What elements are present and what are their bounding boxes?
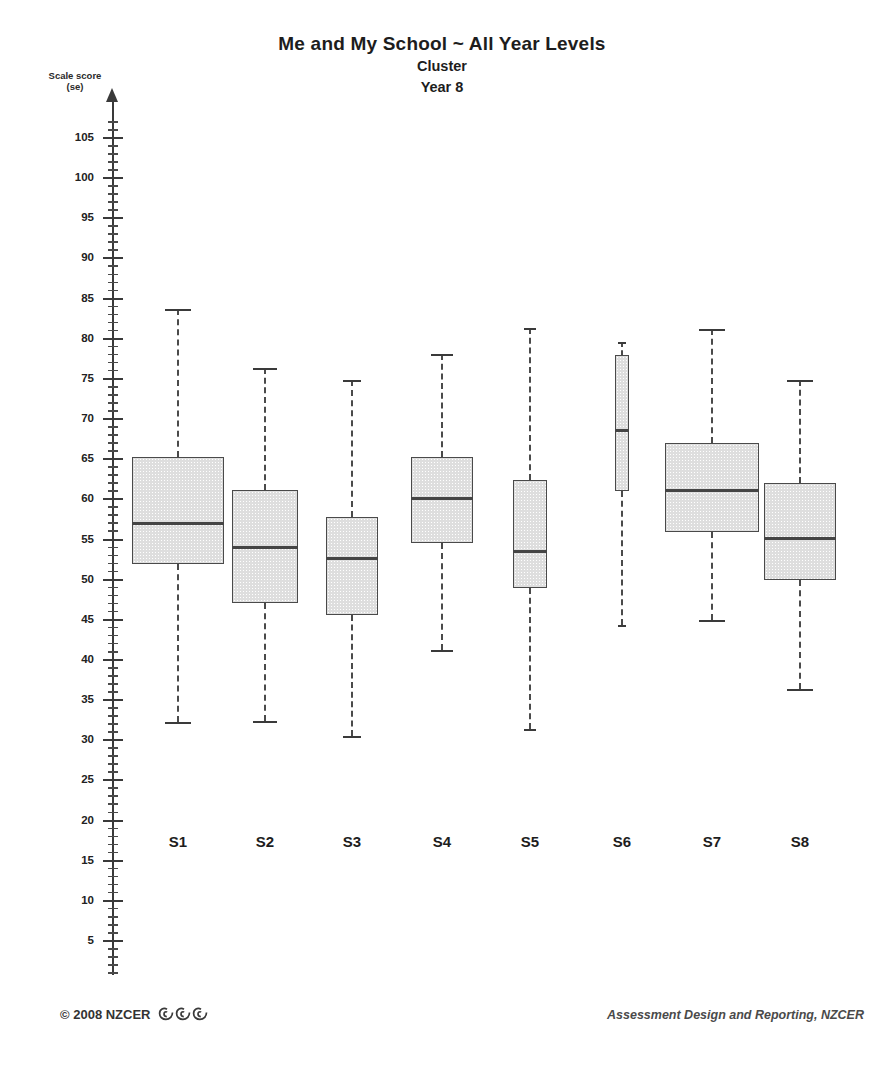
copyright-notice: © 2008 NZCER [60, 1006, 210, 1023]
lower-whisker [799, 580, 801, 689]
upper-whisker [799, 380, 801, 484]
x-axis-label-s4: S4 [412, 833, 472, 850]
x-axis-label-s6: S6 [592, 833, 652, 850]
attribution-text: Assessment Design and Reporting, NZCER [607, 1008, 864, 1022]
lower-whisker-cap [787, 689, 813, 691]
box-plot-canvas: 5101520253035404550556065707580859095100… [0, 0, 884, 1067]
median-line [764, 537, 836, 540]
iqr-box [764, 483, 836, 579]
x-axis-label-s5: S5 [500, 833, 560, 850]
box-plot-s8[interactable] [0, 0, 884, 1067]
upper-whisker-cap [787, 380, 813, 382]
copyright-text: © 2008 NZCER [60, 1007, 151, 1022]
x-axis-label-s3: S3 [322, 833, 382, 850]
x-axis-label-s8: S8 [770, 833, 830, 850]
koru-spiral-logo-icon [158, 1006, 210, 1023]
x-axis-label-s1: S1 [148, 833, 208, 850]
x-axis-label-s2: S2 [235, 833, 295, 850]
x-axis-label-s7: S7 [682, 833, 742, 850]
